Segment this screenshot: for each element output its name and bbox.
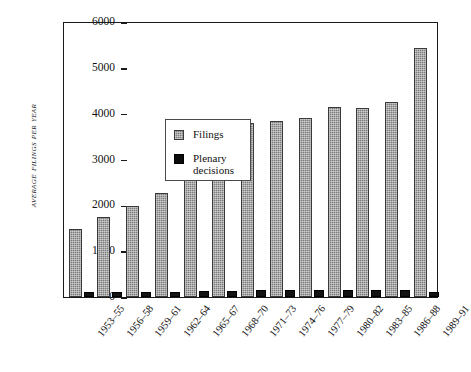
x-axis-label: 1989–91 — [440, 303, 471, 339]
bar-filings — [356, 108, 369, 297]
bar-filings — [385, 102, 398, 297]
x-axis-label: 1953–55 — [95, 303, 126, 339]
y-axis-title-text: Average Filings per Year — [27, 104, 38, 207]
bar-filings — [155, 193, 168, 298]
x-axis-label: 1974–76 — [296, 303, 327, 339]
legend-label-plenary-line1: Plenary — [193, 152, 227, 164]
y-axis-title: Average Filings per Year — [27, 31, 38, 281]
x-axis-label: 1971–73 — [268, 303, 299, 339]
bar-group — [265, 23, 294, 297]
x-axis-label: 1986–88 — [411, 303, 442, 339]
bar-group — [409, 23, 438, 297]
x-axis-label: 1965–67 — [210, 303, 241, 339]
bar-group — [122, 23, 151, 297]
legend-label-filings: Filings — [193, 129, 224, 141]
x-axis-label: 1968–70 — [239, 303, 270, 339]
chart-legend: Filings Plenarydecisions — [165, 119, 251, 181]
legend-item-plenary-decisions: Plenarydecisions — [174, 153, 234, 176]
x-axis-label: 1959–61 — [152, 303, 183, 339]
bar-filings — [414, 48, 427, 297]
bar-filings — [184, 168, 197, 297]
x-axis-label: 1980–82 — [354, 303, 385, 339]
bar-filings — [299, 118, 312, 297]
bar-group — [380, 23, 409, 297]
legend-label-plenary-line2: decisions — [193, 164, 234, 176]
bar-plenary-decisions — [429, 292, 439, 298]
legend-label-plenary-decisions: Plenarydecisions — [193, 153, 234, 176]
x-axis-label: 1983–85 — [383, 303, 414, 339]
bar-filings — [270, 121, 283, 297]
bar-group — [294, 23, 323, 297]
bar-group — [352, 23, 381, 297]
bar-filings — [126, 206, 139, 297]
bar-group — [323, 23, 352, 297]
plenary-swatch-icon — [174, 154, 184, 164]
filings-swatch-icon — [174, 130, 184, 140]
x-axis-label: 1962–64 — [181, 303, 212, 339]
bar-group — [64, 23, 93, 297]
legend-item-filings: Filings — [174, 129, 224, 141]
y-tick-mark — [121, 297, 127, 298]
bar-filings — [97, 217, 110, 297]
bar-filings — [328, 107, 341, 297]
plot-area: 0100020003000400050006000 Filings Plenar… — [63, 23, 437, 298]
x-axis-label: 1956–58 — [124, 303, 155, 339]
bar-filings — [69, 229, 82, 297]
bar-group — [93, 23, 122, 297]
x-axis-label: 1977–79 — [325, 303, 356, 339]
